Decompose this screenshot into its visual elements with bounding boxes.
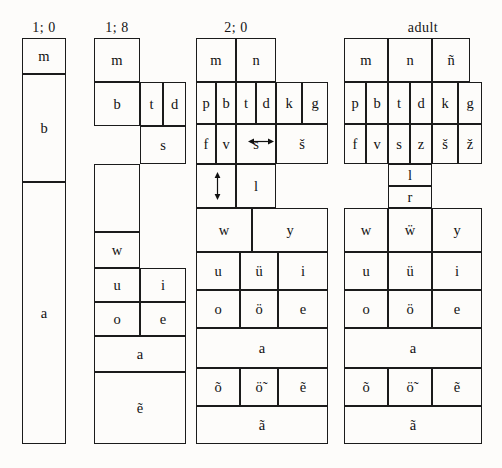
phoneme-cell: o <box>94 302 140 336</box>
horizontal-double-arrow <box>248 136 274 147</box>
phoneme-cell: d <box>410 82 432 124</box>
phoneme-cell: ö <box>388 290 432 328</box>
phoneme-cell: b <box>94 82 140 126</box>
phoneme-cell: d <box>163 82 186 126</box>
phoneme-cell: ẽ <box>94 372 186 444</box>
vertical-double-arrow <box>212 172 223 200</box>
phoneme-cell: l <box>236 164 276 208</box>
phoneme-cell: w <box>94 232 140 268</box>
phoneme-cell: o <box>196 290 240 328</box>
phoneme-cell: w <box>196 208 252 252</box>
phoneme-cell: ã <box>196 406 328 444</box>
phoneme-cell: i <box>278 252 328 290</box>
phoneme-cell: b <box>366 82 388 124</box>
empty-cell <box>94 164 140 232</box>
phoneme-cell: ñ <box>432 38 470 82</box>
phoneme-cell: s <box>140 126 186 164</box>
phoneme-cell: ẅ <box>388 208 432 252</box>
phoneme-cell: m <box>22 38 66 74</box>
phoneme-cell: š <box>432 124 458 164</box>
phoneme-cell: g <box>302 82 328 124</box>
phoneme-cell: s <box>388 124 410 164</box>
phoneme-cell: a <box>196 328 328 368</box>
phoneme-cell: a <box>344 328 482 368</box>
phoneme-cell: t <box>140 82 163 126</box>
phoneme-cell: õ <box>196 368 240 406</box>
phoneme-cell: ö̃ <box>240 368 278 406</box>
phoneme-cell: p <box>196 82 216 124</box>
phoneme-cell: o <box>344 290 388 328</box>
phoneme-cell: m <box>94 38 140 82</box>
column-title: adult <box>388 20 458 36</box>
phoneme-cell: u <box>94 268 140 302</box>
phoneme-cell: ö <box>240 290 278 328</box>
phoneme-cell: y <box>432 208 482 252</box>
phoneme-cell: e <box>140 302 186 336</box>
column-title: 1; 8 <box>94 20 140 36</box>
phoneme-cell: l <box>388 164 432 186</box>
phoneme-cell: n <box>388 38 432 82</box>
phoneme-cell: š <box>276 124 328 164</box>
phoneme-cell: e <box>278 290 328 328</box>
phoneme-cell: i <box>432 252 482 290</box>
phoneme-cell: r <box>388 186 432 208</box>
phoneme-cell: f <box>344 124 366 164</box>
phoneme-cell: b <box>22 74 66 182</box>
phoneme-cell: ü <box>240 252 278 290</box>
phoneme-cell: a <box>94 336 186 372</box>
phoneme-cell: m <box>344 38 388 82</box>
phoneme-cell: t <box>236 82 256 124</box>
phoneme-cell: m <box>196 38 236 82</box>
phoneme-cell: p <box>344 82 366 124</box>
phoneme-cell: ö̃ <box>388 368 432 406</box>
phoneme-cell: k <box>276 82 302 124</box>
phoneme-cell: u <box>196 252 240 290</box>
phoneme-cell: ã <box>344 406 482 444</box>
phoneme-cell: ž <box>458 124 482 164</box>
phoneme-cell: w <box>344 208 388 252</box>
phoneme-cell: i <box>140 268 186 302</box>
phoneme-cell: õ <box>344 368 388 406</box>
phoneme-cell: k <box>432 82 458 124</box>
phoneme-cell: t <box>388 82 410 124</box>
phoneme-cell: f <box>196 124 216 164</box>
phoneme-cell: n <box>236 38 276 82</box>
phoneme-cell: ü <box>388 252 432 290</box>
column-title: 2; 0 <box>196 20 276 36</box>
column-title: 1; 0 <box>22 20 66 36</box>
phoneme-cell: a <box>22 182 66 444</box>
phoneme-cell: b <box>216 82 236 124</box>
phoneme-cell: z <box>410 124 432 164</box>
phoneme-cell: ẽ <box>432 368 482 406</box>
phoneme-chart: 1; 01; 82; 0adultmbambtdswuioeaẽmnpbtdkg… <box>0 0 502 468</box>
phoneme-cell: g <box>458 82 482 124</box>
phoneme-cell: u <box>344 252 388 290</box>
phoneme-cell: e <box>432 290 482 328</box>
phoneme-cell: d <box>256 82 276 124</box>
phoneme-cell: v <box>216 124 236 164</box>
phoneme-cell: v <box>366 124 388 164</box>
phoneme-cell: ẽ <box>278 368 328 406</box>
phoneme-cell: y <box>252 208 328 252</box>
